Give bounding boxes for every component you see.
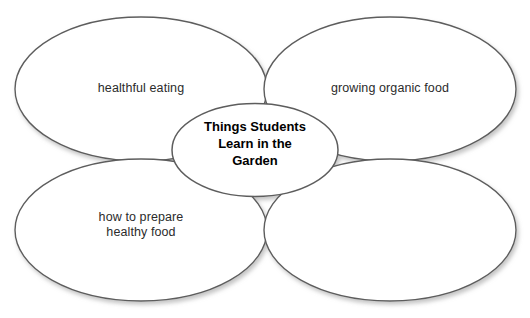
diagram-canvas: healthful eating growing organic food ho… bbox=[0, 0, 530, 318]
diagram-shapes bbox=[0, 0, 530, 318]
center-ellipse[interactable] bbox=[172, 104, 338, 197]
